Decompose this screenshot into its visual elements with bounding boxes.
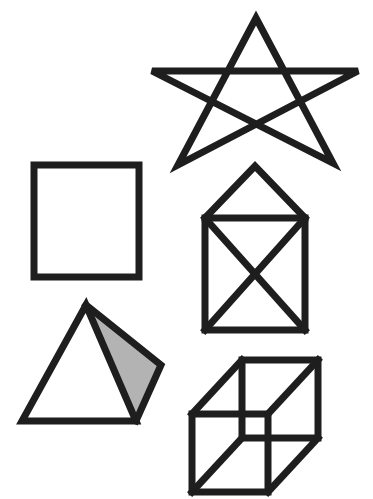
shapes-figure (0, 0, 373, 499)
square-shape (34, 165, 139, 277)
pyramid-shape (22, 305, 161, 421)
figure-canvas (0, 0, 373, 499)
star-shape (152, 18, 358, 165)
house-shape (205, 166, 305, 330)
cube-shape (192, 360, 318, 492)
